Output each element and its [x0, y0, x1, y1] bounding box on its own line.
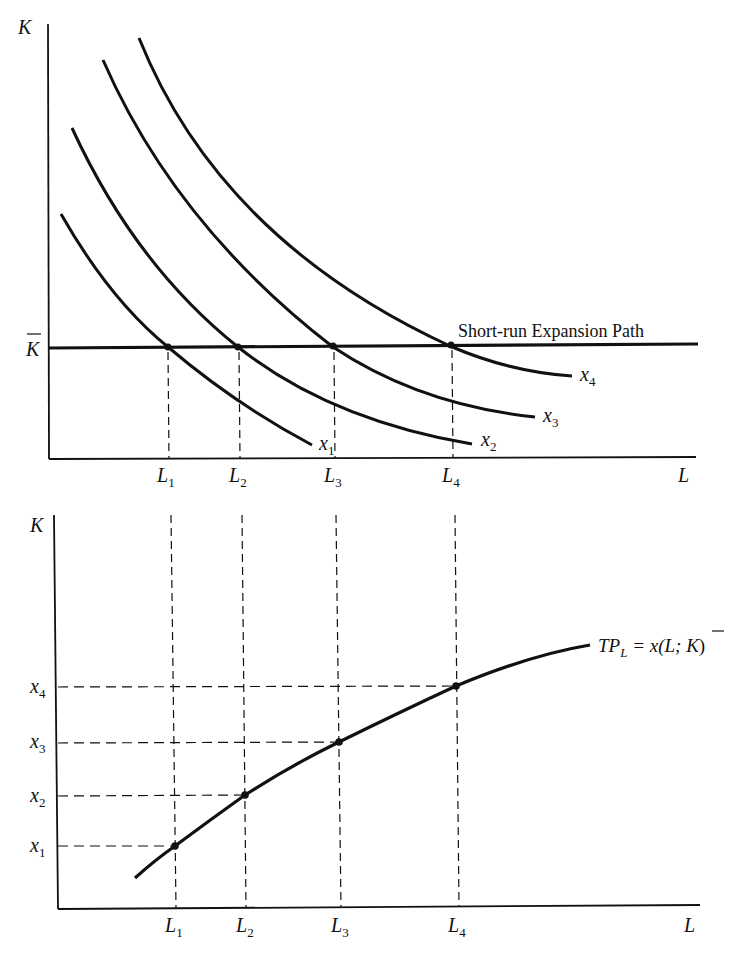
bottom-x-axis-label: L — [683, 914, 695, 936]
total-product-curve — [135, 645, 590, 878]
isoquant-label-x1: x1 — [318, 432, 334, 458]
bottom-tick-x4: x4 — [29, 675, 46, 701]
kbar-label: K — [25, 334, 41, 360]
tp-point-L1 — [171, 842, 179, 850]
tp-point-L2 — [241, 791, 249, 799]
point-L1-x1 — [165, 344, 172, 351]
bottom-tick-x1: x1 — [29, 834, 45, 860]
top-tick-L4: L4 — [441, 464, 460, 490]
bottom-horizontal-guides — [58, 686, 456, 846]
expansion-path-label: Short-run Expansion Path — [458, 321, 644, 341]
isoquant-label-x2: x2 — [480, 428, 496, 454]
point-L2-x2 — [235, 344, 242, 351]
top-x-axis — [49, 457, 696, 459]
isoquant-x2 — [72, 128, 472, 444]
tp-point-L3 — [335, 738, 343, 746]
bottom-y-axis — [54, 515, 58, 909]
total-product-label: TPL = x(L; K) — [598, 635, 705, 660]
svg-text:K: K — [25, 338, 41, 360]
bottom-tick-x3: x3 — [29, 730, 45, 756]
isoquant-label-x4: x4 — [579, 363, 596, 389]
isoquant-x3 — [103, 60, 535, 417]
top-tick-L3: L3 — [323, 464, 342, 490]
top-drop-lines — [168, 350, 453, 458]
top-x-axis-label: L — [677, 464, 689, 486]
top-tick-L2: L2 — [228, 464, 247, 490]
top-y-axis-label: K — [17, 16, 33, 38]
bottom-panel: K L TPL = x(L; K) x1 x2 x3 x4 L1 L2 L3 L… — [29, 514, 724, 940]
bottom-vertical-guides — [171, 515, 459, 908]
isoquant-label-x3: x3 — [542, 404, 558, 430]
bottom-y-axis-label: K — [29, 514, 45, 536]
top-panel: K L K Short-run Expansion Path x1 x2 x3 … — [17, 16, 698, 490]
bottom-tick-L1: L1 — [164, 914, 183, 940]
top-tick-L1: L1 — [156, 464, 175, 490]
bottom-tick-L4: L4 — [447, 914, 466, 940]
bottom-tick-L2: L2 — [235, 914, 254, 940]
point-L3-x3 — [330, 343, 337, 350]
production-diagram: K L K Short-run Expansion Path x1 x2 x3 … — [0, 0, 750, 954]
tp-point-L4 — [452, 682, 460, 690]
top-y-axis — [48, 24, 49, 459]
short-run-expansion-path — [49, 344, 698, 348]
bottom-tick-x2: x2 — [29, 784, 45, 810]
point-L4-x4 — [448, 342, 455, 349]
bottom-x-axis — [58, 905, 700, 909]
bottom-tick-L3: L3 — [330, 914, 349, 940]
isoquant-x1 — [61, 214, 312, 445]
